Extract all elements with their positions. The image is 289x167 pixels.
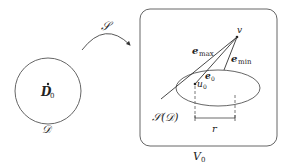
mapping-arrow: 𝒮 <box>82 19 130 50</box>
e-min-sub: min <box>238 58 252 66</box>
disk-set-label: 𝒟 <box>42 123 53 136</box>
ellipse-label: 𝒮(𝒟) <box>152 111 179 124</box>
point-u-sub: 0 <box>203 83 207 90</box>
e-min-label: e <box>231 53 237 64</box>
e-max-sub: max <box>199 50 214 58</box>
e-0-sub: 0 <box>211 75 215 82</box>
mapping-label: 𝒮 <box>101 19 114 33</box>
e-max-label: e <box>192 45 198 56</box>
box-label-sub: 0 <box>201 156 205 164</box>
radius-label: r <box>212 123 218 134</box>
center-label-sub: 0 <box>50 92 54 100</box>
target-box: V 0 <box>140 9 277 164</box>
point-v-label: v <box>237 25 242 35</box>
radius-annotation: r <box>195 86 235 134</box>
source-disk: D 0 𝒟 <box>15 58 81 136</box>
mapping-diagram: D 0 𝒟 𝒮 V 0 𝒮(𝒟) v e max e 0 e min <box>0 0 289 167</box>
